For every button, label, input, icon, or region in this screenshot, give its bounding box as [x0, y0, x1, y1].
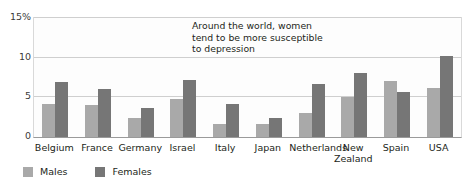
x-axis-label-netherlands: Netherlands — [289, 142, 332, 153]
bar-males-japan — [256, 124, 269, 137]
legend-swatch-females — [95, 167, 105, 177]
bar-females-israel — [183, 80, 196, 137]
x-axis-label-france: France — [76, 142, 119, 153]
bar-males-netherlands — [299, 113, 312, 137]
legend-label-females: Females — [112, 166, 151, 177]
x-axis-label-israel: Israel — [161, 142, 204, 153]
annotation-line-1: Around the world, women — [192, 20, 342, 32]
bar-females-usa — [440, 56, 453, 137]
y-axis-tick-0: 0 — [1, 131, 31, 141]
bar-females-belgium — [55, 82, 68, 137]
bar-males-france — [85, 105, 98, 137]
legend-swatch-males — [23, 167, 33, 177]
x-axis-label-usa: USA — [417, 142, 460, 153]
bar-group — [341, 18, 367, 137]
bar-females-new-zealand — [354, 73, 367, 137]
bar-group — [384, 18, 410, 137]
y-axis: 051015% — [0, 0, 31, 160]
x-axis-label-italy: Italy — [204, 142, 247, 153]
bar-males-usa — [427, 88, 440, 137]
x-axis-label-japan: Japan — [247, 142, 290, 153]
bar-females-japan — [269, 118, 282, 137]
bar-group — [427, 18, 453, 137]
bar-females-spain — [397, 92, 410, 137]
bar-females-italy — [226, 104, 239, 137]
bar-males-new-zealand — [341, 97, 354, 137]
bar-group — [128, 18, 154, 137]
y-axis-tick-15pct: 15% — [1, 12, 31, 22]
x-axis-label-new-zealand: NewZealand — [332, 142, 375, 164]
bar-females-germany — [141, 108, 154, 137]
legend-label-males: Males — [40, 166, 67, 177]
bar-group — [85, 18, 111, 137]
bar-females-france — [98, 89, 111, 137]
x-axis-label-spain: Spain — [375, 142, 418, 153]
bar-males-italy — [213, 124, 226, 137]
annotation-line-3: to depression — [192, 43, 342, 55]
legend-item-females[interactable]: Females — [95, 166, 151, 177]
x-axis-label-germany: Germany — [118, 142, 161, 153]
annotation-line-2: tend to be more susceptible — [192, 32, 342, 44]
bar-males-germany — [128, 118, 141, 137]
chart-legend: MalesFemales — [23, 166, 180, 177]
y-axis-tick-5: 5 — [1, 91, 31, 101]
bar-males-belgium — [42, 104, 55, 137]
bar-males-israel — [170, 99, 183, 137]
y-axis-tick-10: 10 — [1, 52, 31, 62]
x-axis-label-belgium: Belgium — [33, 142, 76, 153]
bar-group — [42, 18, 68, 137]
bar-females-netherlands — [312, 84, 325, 137]
chart-page: 051015% Around the world, womentend to b… — [0, 0, 472, 188]
chart-annotation: Around the world, womentend to be more s… — [192, 20, 342, 55]
bar-males-spain — [384, 81, 397, 137]
legend-item-males[interactable]: Males — [23, 166, 67, 177]
